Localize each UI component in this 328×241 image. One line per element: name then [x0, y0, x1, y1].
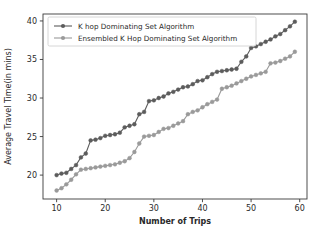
series-marker-1 [118, 161, 122, 165]
series-marker-0 [293, 20, 297, 24]
series-marker-1 [142, 135, 146, 139]
series-marker-1 [133, 150, 137, 154]
series-marker-0 [274, 34, 278, 38]
series-marker-0 [60, 172, 64, 176]
series-marker-1 [186, 112, 190, 116]
series-marker-0 [162, 95, 166, 99]
series-marker-1 [254, 73, 258, 77]
series-marker-1 [55, 189, 59, 193]
series-marker-1 [162, 127, 166, 131]
series-marker-1 [171, 124, 175, 128]
series-marker-1 [293, 50, 297, 54]
x-tick-label: 20 [100, 204, 110, 213]
series-marker-1 [152, 133, 156, 137]
series-marker-0 [142, 110, 146, 114]
series-marker-0 [259, 42, 263, 46]
series-marker-0 [196, 79, 200, 83]
series-marker-0 [74, 163, 78, 167]
series-marker-0 [283, 28, 287, 32]
series-marker-0 [147, 99, 151, 103]
series-marker-0 [215, 70, 219, 74]
series-marker-1 [128, 156, 132, 160]
x-tick-label: 30 [149, 204, 159, 213]
series-marker-1 [191, 110, 195, 114]
series-marker-0 [152, 98, 156, 102]
series-marker-1 [264, 70, 268, 74]
x-tick-label: 60 [295, 204, 305, 213]
series-marker-1 [64, 182, 68, 186]
series-marker-1 [239, 79, 243, 83]
series-marker-0 [230, 68, 234, 72]
x-tick-label: 10 [52, 204, 62, 213]
series-marker-1 [220, 87, 224, 91]
series-marker-1 [259, 71, 263, 75]
series-marker-1 [113, 162, 117, 166]
series-marker-1 [176, 122, 180, 126]
series-marker-0 [133, 122, 137, 126]
legend-marker-0 [61, 24, 65, 28]
series-marker-1 [98, 165, 102, 169]
series-marker-1 [201, 105, 205, 109]
series-marker-1 [269, 61, 273, 65]
series-marker-0 [264, 40, 268, 44]
x-axis-title: Number of Trips [139, 217, 211, 226]
chart-plot-area: 1020304050602025303540Number of TripsAve… [0, 0, 328, 241]
series-marker-0 [176, 88, 180, 92]
series-marker-1 [215, 98, 219, 102]
series-marker-0 [89, 139, 93, 143]
legend-label-1: Ensembled K Hop Dominating Set Algorithm [78, 34, 237, 43]
y-tick-label: 40 [27, 17, 37, 26]
series-marker-1 [205, 102, 209, 106]
series-marker-1 [60, 186, 64, 190]
legend-label-0: K hop Dominating Set Algorithm [78, 22, 194, 31]
x-tick-label: 50 [246, 204, 256, 213]
series-marker-1 [225, 85, 229, 89]
series-marker-0 [137, 112, 141, 116]
series-marker-0 [79, 155, 83, 159]
series-marker-0 [84, 152, 88, 156]
series-marker-1 [157, 130, 161, 134]
series-marker-1 [210, 100, 214, 104]
series-marker-0 [225, 68, 229, 72]
series-marker-1 [288, 55, 292, 59]
series-marker-1 [249, 75, 253, 79]
series-marker-0 [123, 125, 127, 129]
series-marker-1 [274, 61, 278, 65]
series-marker-0 [278, 32, 282, 36]
series-marker-1 [123, 159, 127, 163]
series-marker-0 [98, 136, 102, 140]
series-marker-1 [89, 166, 93, 170]
series-marker-0 [113, 132, 117, 136]
series-marker-0 [108, 133, 112, 137]
legend-marker-1 [61, 36, 65, 40]
series-marker-1 [196, 108, 200, 112]
series-marker-0 [249, 46, 253, 50]
y-tick-label: 30 [27, 94, 37, 103]
series-marker-0 [94, 138, 98, 142]
series-marker-0 [186, 85, 190, 89]
y-tick-label: 20 [27, 171, 37, 180]
series-marker-1 [79, 168, 83, 172]
y-axis-title: Average Travel Time(in mins) [4, 48, 13, 165]
series-marker-0 [239, 60, 243, 64]
y-tick-label: 35 [27, 55, 37, 64]
series-marker-1 [94, 166, 98, 170]
series-marker-1 [103, 164, 107, 168]
series-marker-0 [64, 171, 68, 175]
y-tick-label: 25 [27, 133, 37, 142]
series-marker-0 [201, 78, 205, 82]
series-marker-0 [220, 69, 224, 73]
series-marker-1 [244, 77, 248, 81]
series-marker-0 [205, 75, 209, 79]
series-marker-1 [230, 84, 234, 88]
series-marker-1 [137, 142, 141, 146]
series-marker-0 [69, 167, 73, 171]
series-marker-1 [278, 59, 282, 63]
series-marker-0 [191, 82, 195, 86]
series-marker-1 [108, 163, 112, 167]
series-marker-1 [84, 167, 88, 171]
series-marker-0 [128, 124, 132, 128]
series-marker-0 [210, 72, 214, 76]
series-marker-1 [235, 81, 239, 85]
series-marker-1 [69, 178, 73, 182]
